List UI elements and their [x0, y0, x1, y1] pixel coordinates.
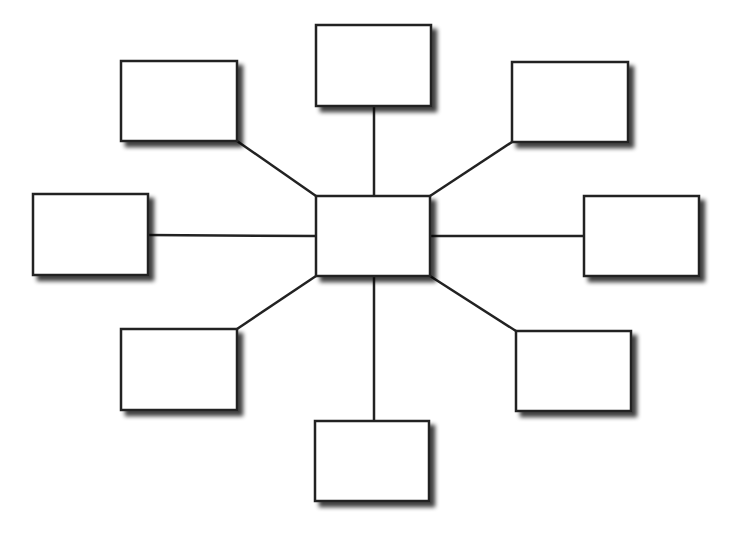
box-left	[33, 194, 148, 275]
box-bottom-left	[121, 329, 237, 410]
connector-top-left	[237, 141, 316, 196]
box-bottom-right	[516, 331, 631, 411]
connector-left	[148, 235, 316, 236]
box-bottom	[315, 421, 429, 501]
connector-top-right	[430, 142, 512, 196]
hub-and-spoke-diagram	[0, 0, 733, 536]
box-top-left	[121, 61, 237, 141]
box-center	[316, 196, 430, 276]
box-top	[316, 25, 431, 106]
box-top-right	[512, 62, 628, 142]
boxes	[33, 25, 699, 501]
connector-bottom-left	[237, 276, 316, 329]
connector-bottom-right	[430, 276, 516, 331]
box-right	[584, 196, 699, 276]
